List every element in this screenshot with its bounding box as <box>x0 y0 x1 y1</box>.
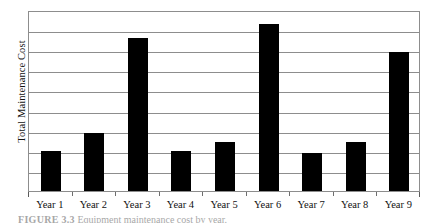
bar <box>389 52 409 191</box>
x-axis-category-labels: Year 1Year 2Year 3Year 4Year 5Year 6Year… <box>28 198 420 212</box>
bars-layer <box>29 12 419 191</box>
x-axis-tick <box>246 192 247 196</box>
x-axis-tick <box>72 192 73 196</box>
y-axis-title: Total Maintenance Cost <box>16 2 27 182</box>
bar <box>171 151 191 191</box>
x-axis-label-2: Year 2 <box>72 198 116 212</box>
x-axis-tick <box>333 192 334 196</box>
x-axis-tick <box>159 192 160 196</box>
x-axis-tick <box>202 192 203 196</box>
x-axis-label-4: Year 4 <box>159 198 203 212</box>
figure-caption-text: Equipment maintenance cost by year. <box>77 214 227 223</box>
x-axis-ticks <box>28 192 420 197</box>
x-axis-label-5: Year 5 <box>202 198 246 212</box>
bar <box>346 142 366 191</box>
x-axis-label-3: Year 3 <box>115 198 159 212</box>
bar <box>41 151 61 191</box>
bar <box>259 24 279 191</box>
x-axis-label-9: Year 9 <box>377 198 421 212</box>
x-axis-label-7: Year 7 <box>289 198 333 212</box>
x-axis-tick <box>289 192 290 196</box>
figure-bar-chart: Total Maintenance Cost Year 1Year 2Year … <box>0 0 433 223</box>
bar <box>215 142 235 191</box>
figure-caption: FIGURE 3.3 Equipment maintenance cost by… <box>18 214 418 223</box>
x-axis-label-1: Year 1 <box>28 198 72 212</box>
plot-area <box>28 11 420 192</box>
x-axis-tick <box>376 192 377 196</box>
bar <box>302 153 322 191</box>
figure-caption-number: FIGURE 3.3 <box>18 214 75 223</box>
x-axis-tick <box>28 192 29 197</box>
x-axis-label-6: Year 6 <box>246 198 290 212</box>
x-axis-tick <box>419 192 420 197</box>
x-axis-tick <box>115 192 116 196</box>
bar <box>84 133 104 191</box>
x-axis-label-8: Year 8 <box>333 198 377 212</box>
bar <box>128 38 148 191</box>
